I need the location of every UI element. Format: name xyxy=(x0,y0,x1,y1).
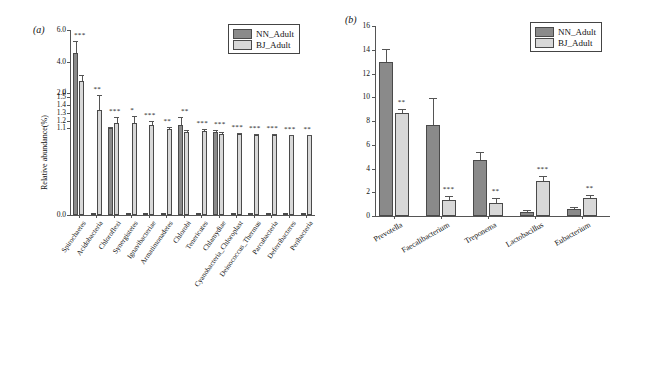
significance-mark: ** xyxy=(395,99,409,106)
significance-mark: *** xyxy=(230,124,244,131)
bar-bj-12[interactable] xyxy=(289,135,294,215)
error-bar-cap xyxy=(79,75,84,76)
error-bar-cap xyxy=(237,133,242,134)
legend-label: NN_Adult xyxy=(558,27,596,37)
bar-nn-2[interactable] xyxy=(108,128,113,215)
axis-line xyxy=(375,216,610,217)
bar-bj-11[interactable] xyxy=(272,135,277,215)
significance-mark: *** xyxy=(213,121,227,128)
bar-bj-2[interactable] xyxy=(114,123,119,215)
significance-mark: *** xyxy=(265,125,279,132)
bar-nn-0[interactable] xyxy=(379,62,393,216)
bar-nn-13[interactable] xyxy=(301,213,306,215)
significance-mark: ** xyxy=(90,86,104,93)
bar-bj-4[interactable] xyxy=(583,198,597,216)
y-tick-label: 0 xyxy=(351,212,370,220)
bar-bj-1[interactable] xyxy=(97,110,102,215)
significance-mark: *** xyxy=(143,112,157,119)
error-bar-cap xyxy=(539,176,547,177)
bar-nn-3[interactable] xyxy=(126,213,131,215)
error-bar-cap xyxy=(73,41,78,42)
x-tick xyxy=(201,215,202,218)
error-bar-cap xyxy=(202,129,207,130)
panel-b: (b) 0246810121416 **Prevotella***Faecali… xyxy=(340,0,648,371)
bar-bj-4[interactable] xyxy=(149,125,154,215)
error-bar-cap xyxy=(219,132,224,133)
x-tick xyxy=(79,215,80,218)
error-bar xyxy=(99,95,100,110)
legend-swatch-icon xyxy=(535,38,554,48)
bar-nn-2[interactable] xyxy=(473,160,487,216)
bar-bj-7[interactable] xyxy=(202,131,207,215)
error-bar-cap xyxy=(178,117,183,118)
y-tick-label: 4 xyxy=(351,165,370,173)
bar-bj-3[interactable] xyxy=(536,181,550,216)
error-bar xyxy=(134,116,135,123)
bar-bj-0[interactable] xyxy=(395,113,409,216)
bar-bj-5[interactable] xyxy=(167,129,172,215)
bar-nn-5[interactable] xyxy=(161,213,166,215)
significance-mark: ** xyxy=(300,126,314,133)
bar-bj-0[interactable] xyxy=(79,81,84,215)
error-bar-cap xyxy=(492,198,500,199)
bar-nn-10[interactable] xyxy=(248,213,253,215)
bar-nn-8[interactable] xyxy=(213,132,218,215)
significance-mark: *** xyxy=(442,186,456,193)
significance-mark: *** xyxy=(108,108,122,115)
bar-nn-4[interactable] xyxy=(143,213,148,215)
error-bar xyxy=(480,152,481,160)
bar-nn-4[interactable] xyxy=(567,209,581,216)
x-tick xyxy=(149,215,150,218)
significance-mark: ** xyxy=(160,118,174,125)
bar-nn-3[interactable] xyxy=(520,212,534,216)
bar-nn-11[interactable] xyxy=(266,213,271,215)
bar-nn-9[interactable] xyxy=(231,213,236,215)
bar-nn-1[interactable] xyxy=(426,125,440,216)
x-tick xyxy=(219,215,220,218)
bar-nn-0[interactable] xyxy=(73,53,78,215)
bar-bj-9[interactable] xyxy=(237,134,242,215)
error-bar-cap xyxy=(254,134,259,135)
bar-bj-10[interactable] xyxy=(254,135,259,215)
bar-bj-13[interactable] xyxy=(307,135,312,215)
bar-bj-8[interactable] xyxy=(219,134,224,215)
bar-bj-6[interactable] xyxy=(184,132,189,215)
legend-label: BJ_Adult xyxy=(256,40,291,50)
error-bar-cap xyxy=(272,134,277,135)
x-tick xyxy=(289,215,290,218)
error-bar-cap xyxy=(398,109,406,110)
panel-a-legend-item-bj[interactable]: BJ_Adult xyxy=(233,39,294,50)
panel-a-plot xyxy=(70,30,315,215)
bar-nn-7[interactable] xyxy=(196,213,201,215)
error-bar-cap xyxy=(167,127,172,128)
y-tick-label-upper: 4.0 xyxy=(42,58,66,66)
significance-mark: ** xyxy=(583,185,597,192)
x-tick xyxy=(582,216,583,219)
bar-bj-2[interactable] xyxy=(489,203,503,216)
y-tick-label-lower: 1.4 xyxy=(42,101,66,109)
error-bar-cap xyxy=(523,210,531,211)
x-tick xyxy=(306,215,307,218)
significance-mark: ** xyxy=(489,188,503,195)
significance-mark: *** xyxy=(195,120,209,127)
bar-bj-3[interactable] xyxy=(132,123,137,215)
panel-b-legend-item-bj[interactable]: BJ_Adult xyxy=(535,37,596,48)
bar-bj-1[interactable] xyxy=(442,200,456,216)
figure-root: (a) Relative abundance(%) 0.01.11.21.31.… xyxy=(0,0,648,371)
legend-swatch-icon xyxy=(233,40,252,50)
error-bar-cap xyxy=(149,121,154,122)
x-tick xyxy=(131,215,132,218)
panel-a-legend: NN_AdultBJ_Adult xyxy=(228,24,300,54)
significance-mark: * xyxy=(125,107,139,114)
y-tick-label-lower: 1.3 xyxy=(42,109,66,117)
panel-b-legend-item-nn[interactable]: NN_Adult xyxy=(535,26,596,37)
bar-nn-12[interactable] xyxy=(283,213,288,215)
y-tick-label-lower: 1.1 xyxy=(42,124,66,132)
x-tick xyxy=(488,216,489,219)
bar-nn-6[interactable] xyxy=(178,125,183,215)
legend-swatch-icon xyxy=(233,29,252,39)
bar-nn-1[interactable] xyxy=(91,213,96,215)
panel-a-legend-item-nn[interactable]: NN_Adult xyxy=(233,28,294,39)
error-bar-cap xyxy=(97,95,102,96)
legend-label: NN_Adult xyxy=(256,29,294,39)
